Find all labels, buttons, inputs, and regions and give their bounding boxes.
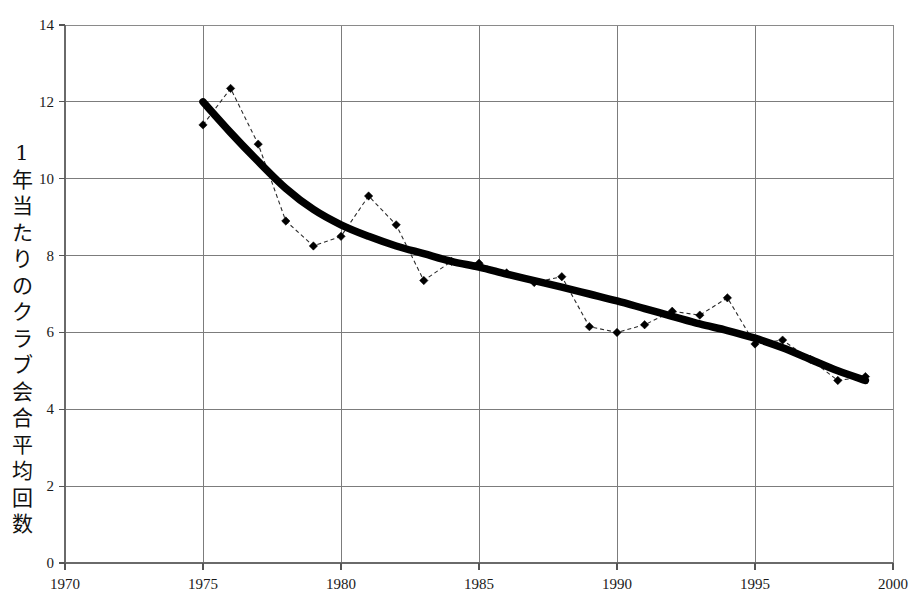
chart-svg: 02468101214 1970197519801985199019952000… [0,0,917,606]
y-axis-title-char: 当 [12,194,33,218]
x-tick-label: 1980 [326,576,356,592]
y-axis-title-char: の [12,274,33,298]
y-tick-label: 10 [39,171,54,187]
x-tick-label: 1995 [740,576,770,592]
y-tick-label: 2 [47,478,55,494]
y-axis-title-char: 合 [12,406,33,430]
y-axis-title-char: ブ [12,353,33,377]
y-axis-title: 1年当たりのクラブ会合平均回数 [12,141,33,536]
y-tick-label: 6 [47,324,55,340]
x-tick-label: 1975 [188,576,218,592]
y-axis-title-char: 数 [12,512,33,536]
y-axis-title-char: 会 [12,380,33,404]
y-axis-title-char: ラ [12,327,33,351]
y-axis-title-char: 均 [12,459,33,483]
x-tick-label: 1970 [50,576,80,592]
x-tick-label: 2000 [878,576,908,592]
y-axis-title-char: ク [12,300,33,324]
y-tick-label: 14 [39,17,55,33]
y-tick-label: 12 [39,94,54,110]
chart-container: 02468101214 1970197519801985199019952000… [0,0,917,606]
y-axis-title-char: 回 [12,486,33,510]
y-axis-title-char: 平 [12,433,33,457]
y-tick-label: 4 [47,401,55,417]
y-axis-title-char: た [12,221,33,245]
y-axis-title-char: り [12,247,33,271]
y-axis-title-char: 1 [15,141,28,165]
y-axis-title-char: 年 [12,168,33,192]
y-tick-label: 8 [47,248,55,264]
x-tick-label: 1990 [602,576,632,592]
x-tick-label: 1985 [464,576,494,592]
chart-background [0,0,917,606]
y-tick-label: 0 [47,555,55,571]
